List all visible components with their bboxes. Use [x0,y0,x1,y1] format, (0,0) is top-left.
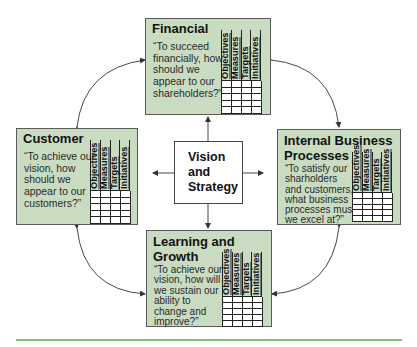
arrow-financial-internal [271,60,339,127]
grid-cells [221,80,261,114]
customer-title: Customer [23,132,84,146]
internal-scorecard-grid: Objectives Measures Targets Initiatives [352,152,392,222]
learning-and-growth-box: Learning and Growth “To achieve our visi… [146,230,272,327]
customer-question: “To achieve our vision, how should we ap… [24,151,95,210]
column-initiatives: Initiatives [119,147,129,189]
arrow-customer-learning [77,228,145,294]
customer-scorecard-grid: Objectives Measures Targets Initiatives [90,140,130,224]
vision-and-strategy-box: Vision and Strategy [174,141,243,204]
vision-and-strategy-label: Vision and Strategy [188,150,238,195]
column-initiatives: Initiatives [381,149,391,191]
column-initiatives: Initiatives [251,253,261,295]
customer-perspective-box: Customer “To achieve our vision, how sho… [16,128,138,225]
column-initiatives: Initiatives [250,37,260,79]
grid-cells [222,296,262,327]
financial-title: Financial [152,22,208,36]
grid-cells [352,192,392,222]
financial-perspective-box: Financial “To succeed financially, how s… [145,18,271,115]
learning-question: “To achieve our vision, how will we sust… [154,265,222,327]
internal-business-processes-box: Internal Business Processes “To satisfy … [277,129,401,225]
grid-cells [90,190,130,224]
arrow-internal-learning [272,227,339,294]
arrow-customer-financial [77,60,145,127]
financial-question: “To succeed financially, how should we a… [153,41,223,100]
financial-scorecard-grid: Objectives Measures Targets Initiatives [221,30,261,114]
learning-scorecard-grid: Objectives Measures Targets Initiatives [222,252,262,327]
internal-question: “To satisfy our sharholders and customer… [285,164,355,226]
bottom-rule [16,339,402,341]
